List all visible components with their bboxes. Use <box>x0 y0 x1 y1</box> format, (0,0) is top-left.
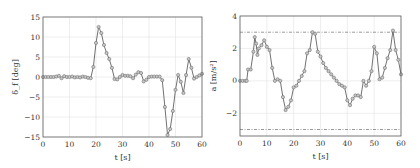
y-tick-label: −10 <box>24 113 40 122</box>
data-point <box>386 57 389 60</box>
data-point <box>370 70 373 73</box>
data-point <box>245 79 248 82</box>
data-point <box>330 73 333 76</box>
data-point <box>163 105 166 108</box>
data-point <box>253 35 256 38</box>
x-tick-labels: 0102030405060 <box>41 140 207 149</box>
data-point <box>255 42 258 45</box>
grid <box>240 16 401 136</box>
y-tick-label: 10 <box>30 33 40 42</box>
x-tick-label: 10 <box>65 140 75 149</box>
x-tick-label: 50 <box>369 139 379 148</box>
data-point <box>327 70 330 73</box>
data-point <box>174 88 177 91</box>
x-tick-label: 30 <box>118 140 128 149</box>
x-tick-labels: 0102030405060 <box>238 139 406 148</box>
x-tick-label: 10 <box>262 139 272 148</box>
y-tick-label: −2 <box>226 109 237 118</box>
data-point <box>97 25 100 28</box>
data-point <box>132 77 135 80</box>
data-point <box>177 73 180 76</box>
data-point <box>265 45 268 48</box>
data-point <box>166 133 169 136</box>
data-point <box>381 76 384 79</box>
data-point <box>110 66 113 69</box>
data-point <box>182 91 185 94</box>
data-point <box>346 99 349 102</box>
data-point <box>319 55 322 58</box>
data-point <box>297 79 300 82</box>
data-point <box>389 48 392 51</box>
data-point <box>305 52 308 55</box>
data-point <box>332 76 335 79</box>
data-point <box>397 58 400 61</box>
data-point <box>94 41 97 44</box>
data-point <box>185 73 188 76</box>
data-point <box>252 50 255 53</box>
data-point <box>322 61 325 64</box>
data-point <box>281 95 284 98</box>
data-point <box>256 53 259 56</box>
data-point <box>287 105 290 108</box>
data-point <box>105 51 108 54</box>
y-tick-label: −5 <box>29 93 40 102</box>
x-tick-label: 40 <box>343 139 353 148</box>
y-tick-label: 0 <box>232 76 237 85</box>
data-point <box>359 95 362 98</box>
x-tick-label: 0 <box>41 140 46 149</box>
data-point <box>303 70 306 73</box>
y-tick-labels: −15−10−5051015 <box>24 13 40 142</box>
data-point <box>260 44 263 47</box>
data-point <box>145 78 148 81</box>
x-tick-label: 60 <box>197 140 207 149</box>
data-point <box>100 31 103 34</box>
data-point <box>89 77 92 80</box>
data-point <box>190 66 193 69</box>
data-point <box>289 99 292 102</box>
x-tick-label: 30 <box>316 139 326 148</box>
data-point <box>367 79 370 82</box>
data-point <box>171 109 174 112</box>
y-axis-label: a [m/s²] <box>209 60 218 91</box>
x-axis-label: t [s] <box>312 152 328 161</box>
data-point <box>179 80 182 83</box>
data-point <box>187 57 190 60</box>
data-point <box>391 29 394 32</box>
y-axis-label: δ_f [deg] <box>11 59 20 95</box>
data-point <box>257 47 260 50</box>
data-point <box>92 65 95 68</box>
data-point <box>335 79 338 82</box>
data-point <box>300 74 303 77</box>
y-tick-label: 2 <box>232 44 237 53</box>
x-tick-label: 50 <box>171 140 181 149</box>
x-tick-label: 40 <box>144 140 154 149</box>
y-tick-label: 4 <box>232 12 237 21</box>
y-tick-label: 15 <box>30 13 40 22</box>
data-point <box>375 52 378 55</box>
data-point <box>271 66 274 69</box>
data-point <box>348 104 351 107</box>
data-point <box>169 127 172 130</box>
data-point <box>383 66 386 69</box>
data-point <box>314 32 317 35</box>
data-point <box>161 79 164 82</box>
data-point <box>57 74 60 77</box>
x-tick-label: 20 <box>289 139 299 148</box>
y-tick-label: 5 <box>35 53 40 62</box>
data-point <box>324 66 327 69</box>
data-point <box>108 57 111 60</box>
acceleration-chart: 0102030405060 −2024 t [s] a [m/s²] <box>209 12 406 161</box>
figure-canvas: 0102030405060 −15−10−5051015 t [s] δ_f [… <box>0 0 420 168</box>
x-axis-label: t [s] <box>114 153 130 162</box>
data-point <box>116 78 119 81</box>
y-tick-labels: −2024 <box>226 12 237 118</box>
data-point <box>394 48 397 51</box>
data-point <box>249 68 252 71</box>
steering-angle-chart: 0102030405060 −15−10−5051015 t [s] δ_f [… <box>11 13 207 162</box>
data-point <box>365 84 368 87</box>
data-point <box>316 50 319 53</box>
data-point <box>373 45 376 48</box>
data-point <box>134 73 137 76</box>
data-point <box>351 97 354 100</box>
data-point <box>343 86 346 89</box>
